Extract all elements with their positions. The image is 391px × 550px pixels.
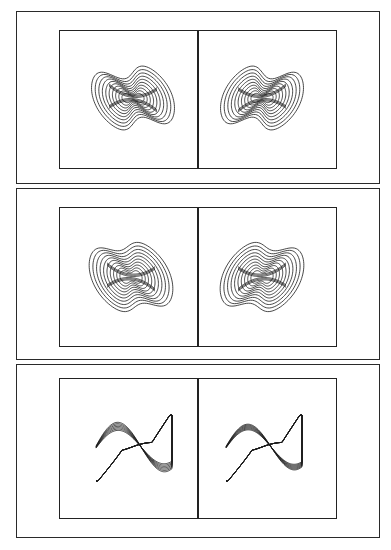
trajectory-loop [226,415,302,481]
phase-plot-middle-left [89,242,173,311]
trajectory-loop [104,256,159,298]
trajectory-loop [228,73,296,123]
trajectory-loop [245,88,280,108]
trajectory-layer [0,0,391,550]
phase-plot-top-left [92,66,175,130]
trajectory-loop [226,415,302,481]
phase-plot-top-right [221,66,304,130]
trajectory-loop [221,66,304,130]
trajectory-loop [228,249,297,304]
trajectory-loop [226,415,302,481]
trajectory-loop [92,66,175,130]
trajectory-loop [226,415,302,481]
trajectory-loop [248,268,277,286]
trajectory-loop [226,415,302,481]
trajectory-loop [99,73,167,123]
trajectory-loop [106,79,160,116]
trajectory-loop [114,265,149,289]
trajectory-loop [116,88,151,108]
trajectory-loop [226,415,302,481]
trajectory-loop [96,415,172,481]
phase-plot-bottom-right [226,415,302,481]
trajectory-loop [97,249,166,304]
phase-plot-middle-right [220,242,304,311]
trajectory-loop [117,268,146,286]
trajectory-loop [235,79,289,116]
trajectory-loop [226,415,302,481]
phase-plot-bottom-left [96,415,172,481]
trajectory-loop [235,256,290,298]
trajectory-loop [102,76,163,120]
trajectory-loop [231,76,292,120]
trajectory-loop [245,265,280,289]
